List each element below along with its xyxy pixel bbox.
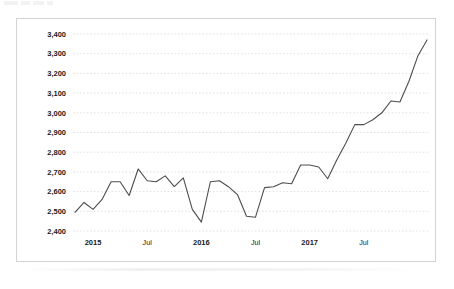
chart-frame: 2,4002,5002,6002,7002,8002,9003,0003,100…	[16, 18, 436, 262]
artifact-mark	[21, 1, 30, 5]
x-axis-tick-label: 2015	[85, 238, 102, 247]
y-axis-tick-label: 2,600	[47, 187, 66, 196]
x-axis-tick-label: Jul	[143, 238, 153, 247]
y-axis-tick-label: 3,200	[47, 69, 66, 78]
y-axis-tick-label: 3,000	[47, 109, 66, 118]
y-axis-tick-label: 3,300	[47, 49, 66, 58]
artifact-mark	[47, 1, 53, 5]
line-chart: 2,4002,5002,6002,7002,8002,9003,0003,100…	[17, 19, 435, 261]
artifact-mark	[4, 1, 18, 5]
y-axis-tick-label: 2,700	[47, 168, 66, 177]
y-axis-tick-label: 3,400	[47, 30, 66, 39]
y-axis-tick-label: 3,100	[47, 89, 66, 98]
gridlines-group	[73, 34, 429, 231]
top-left-artifact	[4, 1, 68, 8]
y-axis-tick-label: 2,800	[47, 148, 66, 157]
x-axis-tick-label: 2017	[301, 238, 318, 247]
x-axis-tick-label: Jul	[251, 238, 261, 247]
x-axis-tick-label: 2016	[193, 238, 210, 247]
page-shadow	[18, 268, 418, 271]
y-axis-tick-label: 2,900	[47, 128, 66, 137]
series-line-1	[75, 40, 427, 222]
y-axis-tick-label: 2,400	[47, 227, 66, 236]
y-axis-tick-label: 2,500	[47, 207, 66, 216]
x-axis-tick-label: Jul	[359, 238, 369, 247]
artifact-mark	[33, 1, 44, 5]
x-axis-labels: 2015Jul2016Jul2017Jul	[85, 238, 369, 247]
y-axis-labels: 2,4002,5002,6002,7002,8002,9003,0003,100…	[47, 30, 66, 236]
